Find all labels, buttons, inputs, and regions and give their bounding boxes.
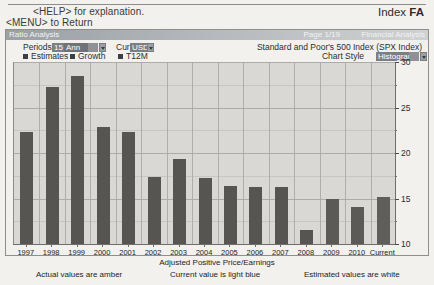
y-tick-minor (395, 221, 397, 222)
x-tick-2003 (179, 244, 180, 247)
gridline-h-30 (14, 62, 395, 63)
y-tick-label-25: 25 (401, 104, 410, 112)
gridline-v (371, 62, 372, 244)
section-label: Financial Analysis (361, 30, 425, 40)
x-tick-2006 (255, 244, 256, 247)
y-tick-10 (395, 244, 399, 245)
x-tick-2007 (280, 244, 281, 247)
legend-note-estimated: Estimated values are white (304, 270, 400, 279)
bar-2003[interactable] (173, 159, 186, 244)
x-tick-2010 (357, 244, 358, 247)
x-tick-2001 (128, 244, 129, 247)
bar-2009[interactable] (326, 199, 339, 245)
chart-style-label: Chart Style (322, 51, 364, 61)
checkbox-growth-icon[interactable] (70, 54, 75, 59)
gridline-v (269, 62, 270, 244)
x-tick-Current (382, 244, 383, 247)
bar-2002[interactable] (148, 177, 161, 244)
x-tick-2005 (229, 244, 230, 247)
gridline-v (218, 62, 219, 244)
bar-2001[interactable] (122, 132, 135, 244)
bloomberg-terminal-screen: <HELP> for explanation. <MENU> to Return… (0, 0, 434, 285)
x-tick-2009 (331, 244, 332, 247)
controls-row-toggles: Estimates Growth T12M Chart Style Histog… (6, 51, 428, 61)
bar-1997[interactable] (20, 132, 33, 244)
chart-style-chevron-down-icon[interactable] (420, 52, 427, 61)
checkbox-t12m-icon[interactable] (118, 54, 123, 59)
screen-title: Ratio Analysis (9, 30, 59, 40)
function-code-fa: FA (409, 6, 424, 18)
legend-note-current: Current value is light blue (170, 270, 260, 279)
gridline-v (116, 62, 117, 244)
y-tick-label-15: 15 (401, 195, 410, 203)
menu-hint-line2: <MENU> to Return (6, 17, 93, 28)
page-indicator[interactable]: Page 1/19 (304, 30, 340, 40)
bar-1998[interactable] (46, 87, 59, 244)
y-tick-minor (395, 85, 397, 86)
gridline-v (243, 62, 244, 244)
x-tick-2000 (102, 244, 103, 247)
gridline-v (345, 62, 346, 244)
gridline-v (294, 62, 295, 244)
bar-2004[interactable] (199, 178, 212, 244)
y-tick-30 (395, 62, 399, 63)
x-tick-1997 (26, 244, 27, 247)
bar-2007[interactable] (275, 187, 288, 244)
x-axis-title: Adjusted Positive Price/Earnings (0, 258, 434, 267)
bar-2000[interactable] (97, 127, 110, 244)
bar-2008[interactable] (300, 230, 313, 244)
x-tick-2002 (153, 244, 154, 247)
toggle-t12m-label[interactable]: T12M (126, 51, 148, 61)
gridline-v (320, 62, 321, 244)
bar-2005[interactable] (224, 186, 237, 244)
function-index-label: Index (378, 6, 406, 18)
gridline-v (141, 62, 142, 244)
bar-2010[interactable] (351, 207, 364, 244)
y-tick-label-20: 20 (401, 149, 410, 157)
x-tick-2008 (306, 244, 307, 247)
gridline-v (65, 62, 66, 244)
y-tick-label-10: 10 (401, 240, 410, 248)
help-hint-line1: <HELP> for explanation. (33, 6, 144, 17)
gridline-v (167, 62, 168, 244)
y-tick-minor (395, 130, 397, 131)
gridline-v (90, 62, 91, 244)
toggle-growth-label[interactable]: Growth (78, 51, 105, 61)
y-tick-15 (395, 199, 399, 200)
y-tick-20 (395, 153, 399, 154)
gridline-v (192, 62, 193, 244)
bar-1999[interactable] (71, 76, 84, 244)
bar-2006[interactable] (249, 187, 262, 244)
y-tick-label-30: 30 (401, 58, 410, 66)
x-tick-1999 (77, 244, 78, 247)
price-earnings-histogram[interactable] (13, 62, 395, 244)
function-code-display: Index FA (378, 6, 424, 18)
top-divider (8, 4, 426, 5)
checkbox-estimates-icon[interactable] (23, 54, 28, 59)
y-tick-25 (395, 108, 399, 109)
x-tick-2004 (204, 244, 205, 247)
x-tick-1998 (51, 244, 52, 247)
screen-title-bar: Ratio Analysis Page 1/19 Financial Analy… (6, 30, 428, 40)
x-tick-label-Current: Current (367, 248, 398, 257)
y-tick-minor (395, 176, 397, 177)
gridline-v (39, 62, 40, 244)
chart-style-fill (409, 52, 419, 61)
legend-note-actual: Actual values are amber (36, 270, 122, 279)
toggle-estimates-label[interactable]: Estimates (31, 51, 68, 61)
bar-Current[interactable] (377, 197, 390, 244)
